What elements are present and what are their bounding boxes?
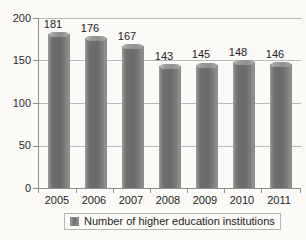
y-axis-tick-label: 150 — [0, 55, 31, 66]
data-label-2011: 146 — [260, 49, 290, 60]
data-label-2006: 176 — [75, 23, 105, 34]
bar-2005[interactable] — [48, 18, 70, 188]
data-label-2010: 148 — [223, 47, 253, 58]
x-axis-label-2007: 2007 — [110, 194, 152, 206]
legend-swatch-icon — [70, 217, 79, 226]
x-axis-label-2009: 2009 — [184, 194, 226, 206]
x-axis-label-2011: 2011 — [258, 194, 300, 206]
x-axis-tick — [150, 188, 151, 193]
y-axis-tick-label: 0 — [0, 183, 31, 194]
x-axis-label-2005: 2005 — [36, 194, 78, 206]
data-label-2008: 143 — [149, 51, 179, 62]
bar-body — [233, 62, 255, 188]
x-axis-tick — [76, 188, 77, 193]
x-axis-tick — [187, 188, 188, 193]
data-label-2005: 181 — [38, 19, 68, 30]
bar-2008[interactable] — [159, 18, 181, 188]
bar-2011[interactable] — [270, 18, 292, 188]
x-axis-tick — [224, 188, 225, 193]
bar-cap — [271, 62, 291, 67]
y-axis-tick-label: 200 — [0, 13, 31, 24]
data-label-2007: 167 — [112, 31, 142, 42]
x-axis-tick — [113, 188, 114, 193]
y-axis-labels: 200 150 100 50 0 — [0, 0, 33, 240]
x-axis-tick — [261, 188, 262, 193]
x-axis-tick — [38, 188, 39, 193]
bar-cap — [234, 60, 254, 65]
data-label-2009: 145 — [186, 49, 216, 60]
bar-cap — [160, 64, 180, 69]
y-axis-tick-label: 50 — [0, 140, 31, 151]
bar-chart: 200 150 100 50 0 — [0, 0, 306, 240]
bar-cap — [123, 44, 143, 49]
bar-body — [270, 64, 292, 188]
bar-body — [122, 46, 144, 188]
bar-cap — [86, 36, 106, 41]
x-axis-label-2010: 2010 — [221, 194, 263, 206]
chart-legend: Number of higher education institutions — [64, 213, 281, 230]
x-axis-tick — [300, 188, 301, 193]
bar-body — [48, 34, 70, 188]
bar-cap — [49, 32, 69, 37]
bar-2006[interactable] — [85, 18, 107, 188]
bar-2007[interactable] — [122, 18, 144, 188]
x-axis-label-2008: 2008 — [147, 194, 189, 206]
bar-body — [159, 66, 181, 188]
y-axis-tick-label: 100 — [0, 98, 31, 109]
x-axis-label-2006: 2006 — [73, 194, 115, 206]
bars-layer — [38, 18, 301, 188]
bar-body — [85, 38, 107, 188]
bar-cap — [197, 63, 217, 68]
legend-label: Number of higher education institutions — [84, 216, 275, 227]
bar-2009[interactable] — [196, 18, 218, 188]
bar-body — [196, 65, 218, 188]
bar-2010[interactable] — [233, 18, 255, 188]
